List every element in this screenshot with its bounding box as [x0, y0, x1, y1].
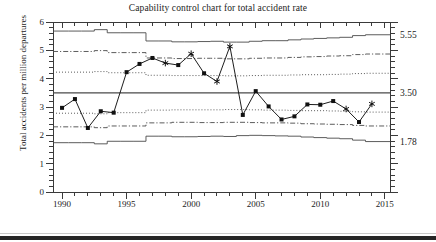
- x-tick-minor: [359, 193, 360, 196]
- y-tick-minor-right: [391, 152, 395, 153]
- y-tick-minor-right: [391, 141, 395, 142]
- right-axis-limit-label: 5.55: [400, 30, 417, 40]
- y-tick-major: [46, 22, 53, 23]
- y-tick-major-right: [391, 163, 398, 164]
- y-tick-minor-right: [391, 56, 395, 57]
- data-point-marker-square: [305, 102, 309, 106]
- data-point-marker-square: [176, 63, 180, 67]
- y-tick-major-right: [391, 50, 398, 51]
- y-tick-minor-right: [391, 95, 395, 96]
- y-tick-major-right: [391, 78, 398, 79]
- data-point-marker-square: [331, 99, 335, 103]
- data-point-marker-square: [357, 120, 361, 124]
- y-tick-major: [46, 78, 53, 79]
- y-tick-label: 3: [40, 102, 45, 112]
- footer-divider: [0, 233, 436, 234]
- x-tick-minor: [152, 193, 153, 196]
- y-tick-major: [46, 135, 53, 136]
- x-tick-minor: [268, 193, 269, 196]
- y-tick-major: [46, 163, 53, 164]
- x-tick-minor: [204, 193, 205, 196]
- y-tick-minor-right: [391, 73, 395, 74]
- x-tick-label: 2010: [311, 199, 329, 209]
- data-point-marker-square: [112, 111, 116, 115]
- y-tick-minor-right: [391, 186, 395, 187]
- y-tick-minor-right: [391, 129, 395, 130]
- y-tick-minor-right: [391, 27, 395, 28]
- y-tick-major: [46, 107, 53, 108]
- y-tick-label: 1: [40, 159, 45, 169]
- y-tick-minor-right: [391, 44, 395, 45]
- y-tick-major-right: [391, 22, 398, 23]
- x-tick-minor: [178, 193, 179, 196]
- x-tick-minor: [87, 193, 88, 196]
- control-limit-1: [53, 30, 390, 42]
- control-limit-7: [53, 135, 390, 144]
- y-tick-minor-right: [391, 124, 395, 125]
- data-point-marker-square: [125, 70, 129, 74]
- right-axis-limit-label: 1.78: [400, 137, 417, 147]
- y-tick-minor-right: [391, 101, 395, 102]
- data-point-marker-square: [241, 113, 245, 117]
- x-tick-minor: [139, 193, 140, 196]
- data-point-marker-square: [150, 56, 154, 60]
- x-tick-minor: [74, 193, 75, 196]
- control-limit-2: [53, 51, 390, 59]
- y-tick-major-right: [391, 135, 398, 136]
- y-tick-major: [46, 50, 53, 51]
- accident-rate-line: [62, 46, 372, 128]
- x-axis-line: [53, 192, 391, 193]
- y-tick-major: [46, 192, 53, 193]
- y-tick-minor-right: [391, 146, 395, 147]
- x-tick-label: 1990: [53, 199, 71, 209]
- x-tick-minor: [165, 193, 166, 196]
- footer-bar: [0, 236, 436, 240]
- x-tick-minor: [333, 193, 334, 196]
- y-tick-label: 4: [40, 74, 45, 84]
- x-tick-minor: [346, 193, 347, 196]
- right-axis-limit-label: 3.50: [400, 88, 417, 98]
- data-point-marker-square: [138, 62, 142, 66]
- y-tick-minor-right: [391, 67, 395, 68]
- data-point-marker-star: [214, 78, 220, 85]
- plot-area: [53, 22, 390, 192]
- x-tick-label: 2000: [182, 199, 200, 209]
- control-limit-lines: [53, 30, 390, 144]
- y-tick-minor-right: [391, 39, 395, 40]
- data-point-marker-square: [99, 109, 103, 113]
- data-point-marker-star: [227, 43, 233, 50]
- data-point-marker-square: [292, 114, 296, 118]
- x-tick-label: 2015: [376, 199, 394, 209]
- x-tick-minor: [242, 193, 243, 196]
- control-limit-3: [53, 72, 390, 76]
- y-tick-label: 6: [40, 17, 45, 27]
- data-point-marker-square: [267, 104, 271, 108]
- data-series-line: [62, 46, 372, 128]
- x-tick-minor: [307, 193, 308, 196]
- figure-container: Capability control chart for total accid…: [0, 0, 436, 242]
- x-tick-minor: [113, 193, 114, 196]
- x-tick-label: 2005: [247, 199, 265, 209]
- data-point-marker-square: [73, 97, 77, 101]
- y-tick-minor-right: [391, 158, 395, 159]
- data-point-marker-square: [60, 106, 64, 110]
- x-tick-minor: [229, 193, 230, 196]
- x-tick-minor: [371, 193, 372, 196]
- data-point-marker-square: [254, 89, 258, 93]
- y-tick-minor-right: [391, 175, 395, 176]
- data-point-marker-square: [280, 117, 284, 121]
- y-tick-label: 2: [40, 130, 45, 140]
- x-tick-label: 1995: [118, 199, 136, 209]
- y-tick-label: 0: [40, 187, 45, 197]
- y-tick-minor-right: [391, 118, 395, 119]
- x-tick-minor: [100, 193, 101, 196]
- y-tick-minor-right: [391, 169, 395, 170]
- x-tick-minor: [281, 193, 282, 196]
- control-limit-6: [53, 122, 390, 127]
- y-tick-minor-right: [391, 33, 395, 34]
- y-tick-minor-right: [391, 90, 395, 91]
- y-tick-major-right: [391, 192, 398, 193]
- y-tick-minor-right: [391, 180, 395, 181]
- y-tick-minor-right: [391, 84, 395, 85]
- x-tick-minor: [294, 193, 295, 196]
